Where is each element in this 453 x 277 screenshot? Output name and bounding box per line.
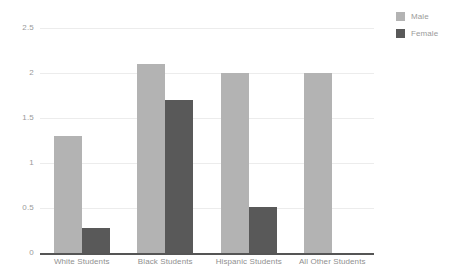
bars-layer [40, 28, 374, 253]
legend-item-male[interactable]: Male [396, 12, 438, 21]
legend-label: Male [411, 13, 429, 21]
bar-group [304, 28, 360, 253]
x-axis: White StudentsBlack StudentsHispanic Stu… [40, 256, 374, 274]
legend-swatch-icon [396, 29, 405, 38]
axis-baseline [40, 253, 374, 255]
legend-item-female[interactable]: Female [396, 29, 438, 38]
y-tick-label: 1 [4, 159, 34, 167]
x-tick-label: All Other Students [291, 256, 375, 268]
bar-male[interactable] [137, 64, 165, 253]
y-tick-label: 0.5 [4, 204, 34, 212]
x-tick-label: White Students [40, 256, 124, 268]
y-axis: 00.511.522.5 [0, 28, 34, 253]
bar-chart: 00.511.522.5 White StudentsBlack Student… [0, 0, 453, 277]
bar-male[interactable] [54, 136, 82, 253]
legend-swatch-icon [396, 12, 405, 21]
bar-group [54, 28, 110, 253]
y-tick-label: 0 [4, 249, 34, 257]
legend: MaleFemale [396, 12, 438, 38]
y-tick-label: 2.5 [4, 24, 34, 32]
y-tick-label: 1.5 [4, 114, 34, 122]
y-tick-label: 2 [4, 69, 34, 77]
x-tick-label: Hispanic Students [207, 256, 291, 268]
legend-label: Female [411, 30, 438, 38]
bar-male[interactable] [221, 73, 249, 253]
bar-female[interactable] [165, 100, 193, 253]
bar-male[interactable] [304, 73, 332, 253]
bar-group [221, 28, 277, 253]
x-tick-label: Black Students [124, 256, 208, 268]
bar-group [137, 28, 193, 253]
bar-female[interactable] [249, 207, 277, 253]
bar-female[interactable] [82, 228, 110, 253]
